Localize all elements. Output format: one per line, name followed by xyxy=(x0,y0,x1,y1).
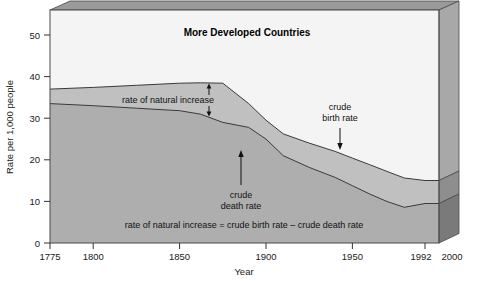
x-axis-title: Year xyxy=(234,266,253,277)
annotation-crude-death-rate-line2: death rate xyxy=(221,201,262,211)
annotation-crude-birth-rate-line1: crude xyxy=(329,102,352,112)
population-rates-chart: 0 10 20 30 40 50 1775 1800 1850 1900 195… xyxy=(0,0,477,281)
y-tick-label-20: 20 xyxy=(29,154,40,165)
y-tick-label-30: 30 xyxy=(29,113,40,124)
x-tick-label-1900: 1900 xyxy=(255,251,276,262)
annotation-crude-death-rate-line1: crude xyxy=(230,190,253,200)
x-tick-label-1775: 1775 xyxy=(39,251,60,262)
x-tick-label-1800: 1800 xyxy=(83,251,104,262)
chart-title: More Developed Countries xyxy=(184,27,311,38)
y-tick-label-0: 0 xyxy=(35,238,40,249)
y-axis-title: Rate per 1,000 people xyxy=(4,80,15,174)
chart-3d-right-face-upper xyxy=(439,1,459,181)
x-axis-ticks xyxy=(50,243,425,249)
chart-figure: 0 10 20 30 40 50 1775 1800 1850 1900 195… xyxy=(0,0,477,281)
x-tick-label-1992: 1992 xyxy=(410,251,431,262)
x-tick-label-1950: 1950 xyxy=(342,251,363,262)
y-tick-label-10: 10 xyxy=(29,196,40,207)
annotation-equation: rate of natural increase = crude birth r… xyxy=(125,220,363,230)
annotation-crude-birth-rate-line2: birth rate xyxy=(322,113,358,123)
y-axis-ticks xyxy=(44,35,50,243)
y-tick-label-40: 40 xyxy=(29,71,40,82)
chart-3d-top-face xyxy=(50,1,459,10)
x-tick-label-2000: 2000 xyxy=(441,251,462,262)
annotation-rate-of-natural-increase-label: rate of natural increase xyxy=(122,95,214,105)
y-tick-label-50: 50 xyxy=(29,30,40,41)
x-tick-label-1850: 1850 xyxy=(169,251,190,262)
